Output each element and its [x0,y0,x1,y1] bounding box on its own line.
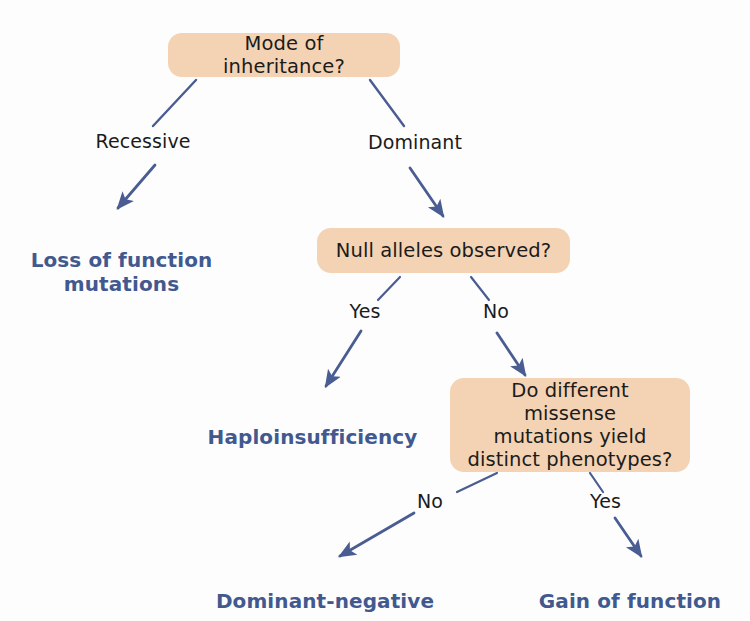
terminal-label: Gain of function [539,589,721,613]
terminal-loss-of-function: Loss of function mutations [14,224,229,296]
edge-label-text: Dominant [368,131,462,153]
edge-label-text: Yes [350,300,381,322]
edge-label-recessive: Recessive [78,132,208,151]
edge-null-to-no [471,277,489,300]
terminal-label: Dominant-negative [216,589,434,613]
decision-node-missense-distinct-phenotypes[interactable]: Do different missense mutations yield di… [450,378,690,472]
edge-no-to-missense-node [497,333,525,375]
edge-label-text: No [417,490,443,512]
edge-yes-to-gain-of-function [615,518,641,556]
edge-null-to-yes [378,277,400,300]
terminal-label: Loss of function mutations [31,248,213,296]
edge-root-to-dominant [370,80,404,126]
edge-root-to-recessive [153,80,196,126]
terminal-dominant-negative: Dominant-negative [210,565,440,613]
edge-yes-to-haploinsufficiency [326,331,361,386]
decision-node-label: Do different missense mutations yield di… [464,379,676,471]
decision-tree-diagram: Mode of inheritance? Null alleles observ… [0,0,750,621]
decision-node-null-alleles-observed[interactable]: Null alleles observed? [317,228,570,273]
terminal-haploinsufficiency: Haploinsufficiency [190,401,435,449]
edge-dominant-to-null-alleles [410,168,443,216]
terminal-label: Haploinsufficiency [208,425,418,449]
edge-label-missense-yes: Yes [578,492,633,511]
edge-recessive-to-loss-of-function [118,165,155,208]
decision-node-label: Null alleles observed? [331,239,556,262]
edge-label-text: Recessive [95,130,190,152]
edge-missense-to-no [457,473,497,492]
decision-node-mode-of-inheritance[interactable]: Mode of inheritance? [168,33,400,77]
edge-label-dominant: Dominant [350,133,480,152]
edge-label-null-no: No [471,302,521,321]
terminal-gain-of-function: Gain of function [525,565,735,613]
decision-node-label: Mode of inheritance? [182,32,386,78]
edge-label-missense-no: No [405,492,455,511]
edge-label-null-yes: Yes [335,302,395,321]
edge-label-text: No [483,300,509,322]
edge-no-to-dominant-negative [340,513,414,556]
edge-label-text: Yes [590,490,621,512]
